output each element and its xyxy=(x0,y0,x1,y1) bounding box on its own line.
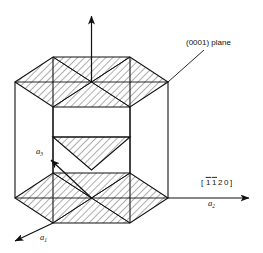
crystal-structure-figure: (0001) plane [1120] a1 a2 a3 xyxy=(0,0,263,253)
a3-axis-label: a3 xyxy=(36,146,43,157)
direction-label-1120: [1120] xyxy=(201,177,232,187)
a2-axis-label: a2 xyxy=(208,198,215,209)
a1-axis-label: a1 xyxy=(40,232,47,243)
svg-text:[1120]: [1120] xyxy=(201,178,232,187)
direction-bracket-open: [ xyxy=(201,178,204,187)
svg-text:a1: a1 xyxy=(40,232,47,243)
direction-bracket-close: ] xyxy=(230,178,232,187)
svg-text:a3: a3 xyxy=(36,146,43,157)
hcp-unit-cell-svg: (0001) plane [1120] a1 a2 a3 xyxy=(0,0,263,253)
mid-plane-triangle xyxy=(53,137,130,170)
plane-label-leader-line xyxy=(168,50,204,82)
svg-text:a2: a2 xyxy=(208,198,215,209)
basal-plane-label: (0001) plane xyxy=(186,38,231,47)
direction-digit-2: 2 xyxy=(218,178,223,187)
direction-digit-1a: 1 xyxy=(206,178,211,187)
a1-axis-arrow xyxy=(15,223,53,241)
direction-digit-1b: 1 xyxy=(212,178,217,187)
direction-digit-0: 0 xyxy=(224,178,229,187)
